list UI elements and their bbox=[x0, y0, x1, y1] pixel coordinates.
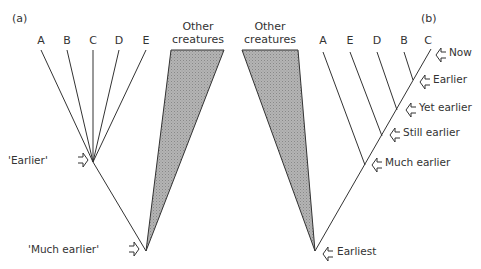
phylogeny-figure: (a) A B C D E Other creatures 'Earlier' … bbox=[0, 0, 481, 269]
leaf-label: B bbox=[400, 35, 408, 47]
arrow-icon bbox=[323, 48, 446, 261]
node-label-earlier: Earlier bbox=[433, 73, 467, 85]
node-label-earlier: 'Earlier' bbox=[8, 154, 48, 166]
other-creatures-label: Other creatures bbox=[172, 20, 224, 46]
panel-b-tree bbox=[315, 49, 431, 251]
leaf-label: A bbox=[319, 35, 327, 47]
node-label-much-earlier: 'Much earlier' bbox=[28, 243, 99, 255]
panel-b-label: (b) bbox=[421, 12, 437, 25]
panel-a-tree bbox=[41, 50, 146, 251]
panel-a-label: (a) bbox=[12, 12, 27, 25]
node-label-much-earlier: Much earlier bbox=[385, 156, 450, 168]
other-creatures-label: Other creatures bbox=[244, 20, 296, 46]
leaf-label: C bbox=[424, 35, 432, 47]
panel-a-other-creatures-wedge bbox=[146, 50, 224, 251]
leaf-label: C bbox=[89, 35, 97, 47]
leaf-label: B bbox=[63, 35, 71, 47]
leaf-label: E bbox=[347, 35, 354, 47]
node-label-still-earlier: Still earlier bbox=[403, 126, 460, 138]
leaf-label: A bbox=[37, 35, 45, 47]
arrow-icon bbox=[78, 153, 139, 256]
node-label-now: Now bbox=[449, 46, 472, 58]
leaf-label: D bbox=[115, 35, 123, 47]
node-label-yet-earlier: Yet earlier bbox=[419, 101, 472, 113]
leaf-label: E bbox=[143, 35, 150, 47]
leaf-label: D bbox=[373, 35, 381, 47]
panel-b-other-creatures-wedge bbox=[242, 50, 315, 251]
node-label-earliest: Earliest bbox=[337, 245, 376, 257]
